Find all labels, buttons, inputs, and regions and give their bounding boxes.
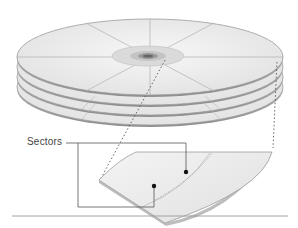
platter-1-top xyxy=(17,19,283,97)
sector-detail xyxy=(99,152,272,226)
sector-dot-1 xyxy=(184,170,188,174)
disk-diagram xyxy=(0,0,298,228)
sectors-label: Sectors xyxy=(27,136,62,147)
sector-dot-2 xyxy=(152,184,156,188)
